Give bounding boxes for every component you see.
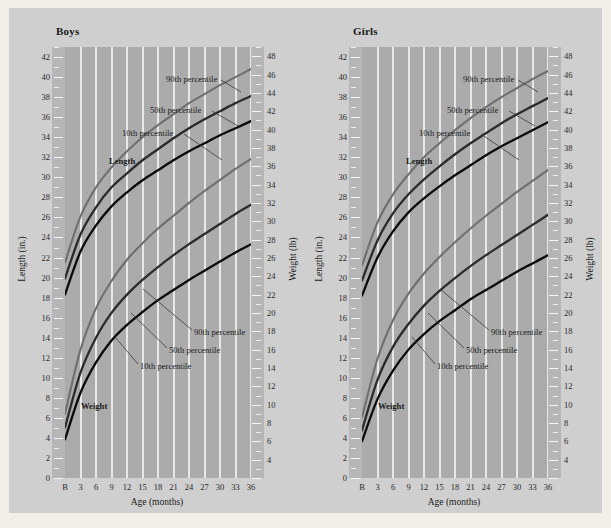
y-axis-right-tick [553,230,558,231]
y-axis-right-tick [256,414,261,415]
y-axis-left-label: 32 [321,152,347,162]
y-axis-right-tick [252,478,261,479]
y-axis-right-label: 4 [267,455,293,465]
y-axis-left-label: 28 [321,192,347,202]
y-axis-left-label: 30 [321,172,347,182]
y-axis-right-label: 14 [267,363,293,373]
y-axis-right-tick [553,212,558,213]
y-axis-left-tick [351,448,356,449]
y-axis-left-tick [54,378,63,379]
y-axis-left-label: 16 [24,313,50,323]
y-axis-right-tick [252,368,261,369]
y-axis-right-title: Weight (lb) [288,214,298,304]
y-axis-right-tick [549,185,558,186]
y-axis-left-tick [351,97,360,98]
y-axis-left-tick [351,438,360,439]
y-axis-left-label: 34 [24,132,50,142]
y-axis-right-label: 6 [564,436,590,446]
y-axis-right-tick [252,423,261,424]
weight-p10-label: 10th percentile [140,361,191,371]
y-axis-right-tick [252,111,261,112]
y-axis-left-tick [351,107,356,108]
y-axis-left-label: 18 [24,293,50,303]
y-axis-right-tick [549,368,558,369]
y-axis-right-tick [549,93,558,94]
y-axis-right-tick [256,359,261,360]
y-axis-right-tick [549,75,558,76]
y-axis-left-tick [54,468,59,469]
length-curve-90th-percentile [65,69,251,262]
y-axis-left-tick [54,137,63,138]
y-axis-left-tick [351,398,360,399]
y-axis-right-tick [553,451,558,452]
y-axis-right-tick [549,350,558,351]
y-axis-right-tick [252,93,261,94]
y-axis-left-tick [54,388,59,389]
y-axis-left-tick [351,348,356,349]
y-axis-left-tick [54,47,59,48]
y-axis-right-tick [252,203,261,204]
y-axis-left-label: 20 [321,273,347,283]
y-axis-left-tick [351,248,356,249]
y-axis-left-tickstrip [52,47,65,478]
y-axis-left-tick [351,197,360,198]
y-axis-right-tick [256,47,261,48]
y-axis-left-label: 2 [321,453,347,463]
y-axis-right-label: 38 [267,143,293,153]
y-axis-right-label: 10 [564,400,590,410]
y-axis-right-label: 44 [564,88,590,98]
y-axis-right-tick [252,441,261,442]
y-axis-left-tick [351,157,360,158]
y-axis-left-tick [54,197,63,198]
y-axis-left-label: 16 [321,313,347,323]
y-axis-right-label: 12 [267,381,293,391]
y-axis-right-tick [252,185,261,186]
y-axis-right-label: 40 [564,125,590,135]
y-axis-right-tickstrip [251,47,264,478]
y-axis-left-label: 26 [321,212,347,222]
length-p50-label: 50th percentile [447,105,498,115]
y-axis-left-tick [351,308,356,309]
growth-chart-figure: Boys424038363432302826242220181614121086… [9,8,602,513]
y-axis-right-tick [549,386,558,387]
y-axis-right-tick [252,75,261,76]
y-axis-right-tick [549,111,558,112]
weight-curve-10th-percentile [362,255,548,441]
y-axis-left-tick [351,338,360,339]
y-axis-right-tick [256,377,261,378]
y-axis-right-label: 8 [267,418,293,428]
y-axis-left-tick [351,117,360,118]
y-axis-left-title: Length (in.) [17,214,27,304]
y-axis-right-tick [256,139,261,140]
y-axis-left-label: 26 [24,212,50,222]
y-axis-left-tick [54,348,59,349]
y-axis-right-title: Weight (lb) [585,214,595,304]
y-axis-right-label: 12 [564,381,590,391]
y-axis-right-tick [549,56,558,57]
weight-curve-50th-percentile [362,215,548,431]
y-axis-right-tick [549,441,558,442]
y-axis-left-label: 30 [24,172,50,182]
y-axis-right-tick [252,56,261,57]
y-axis-right-label: 18 [564,326,590,336]
y-axis-right-tick [256,285,261,286]
y-axis-left-tick [351,237,360,238]
y-axis-left-tick [54,237,63,238]
y-axis-right-tick [256,230,261,231]
y-axis-right-label: 16 [564,345,590,355]
y-axis-left-tick [54,328,59,329]
y-axis-left-label: 14 [24,333,50,343]
y-axis-left-tick [54,77,63,78]
y-axis-right-label: 36 [564,161,590,171]
y-axis-left-tick [54,87,59,88]
y-axis-left-tick [54,478,63,479]
y-axis-right-label: 48 [564,51,590,61]
length-p90-label: 90th percentile [166,74,217,84]
y-axis-right-tickstrip [548,47,561,478]
y-axis-left-tick [54,448,59,449]
y-axis-right-tick [553,285,558,286]
y-axis-right-tick [256,157,261,158]
y-axis-left-label: 38 [321,92,347,102]
y-axis-right-tick [252,386,261,387]
y-axis-left-label: 22 [24,253,50,263]
